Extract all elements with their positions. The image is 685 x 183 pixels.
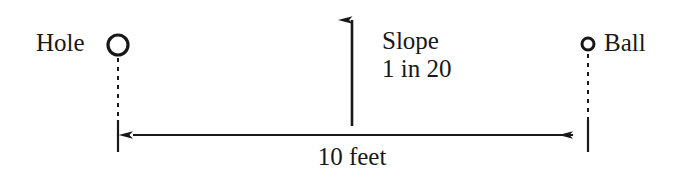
slope-ratio: 1 in 20	[382, 55, 502, 83]
slope-annotation: Slope 1 in 20	[352, 27, 502, 83]
ball-marker-icon	[582, 38, 594, 50]
hole-marker-icon	[108, 35, 128, 55]
distance-label: 10 feet	[252, 143, 452, 171]
slope-title: Slope	[382, 27, 502, 55]
golf-slope-diagram: Hole Ball Slope 1 in 20 10 feet	[0, 0, 685, 183]
ball-label: Ball	[604, 29, 646, 57]
hole-label: Hole	[36, 29, 85, 57]
